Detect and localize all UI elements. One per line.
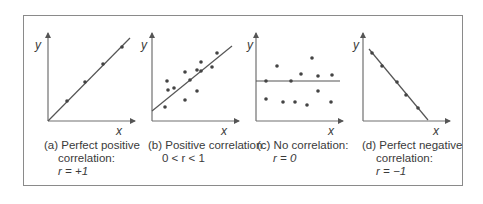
panel-a-caption-line1: (a) Perfect positive (44, 139, 140, 152)
panel-a-x-label: x (116, 124, 122, 138)
panel-b-fit-line (152, 46, 232, 111)
panel-d-caption-line2: correlation: (362, 152, 462, 165)
data-point (165, 79, 169, 83)
data-point (316, 89, 320, 93)
data-point (310, 56, 314, 60)
data-point (416, 106, 420, 110)
panel-b-caption-line1: (b) Positive correlation: (148, 139, 266, 152)
data-point (305, 103, 309, 107)
data-point (330, 73, 334, 77)
data-point (299, 72, 303, 76)
panel-c-caption-line1: (c) No correlation: (257, 139, 348, 152)
data-point (163, 105, 167, 109)
panel-b-caption-line2: 0 < r < 1 (148, 152, 266, 165)
panel-c-y-label: y (247, 38, 253, 52)
data-point (183, 98, 187, 102)
panel-d-caption: (d) Perfect negative correlation: r = −1 (362, 139, 462, 178)
data-point (316, 74, 320, 78)
data-point (404, 93, 408, 97)
data-point (195, 89, 199, 93)
data-point (210, 65, 214, 69)
data-point (120, 45, 124, 49)
data-point (183, 70, 187, 74)
data-point (101, 62, 105, 66)
panel-b-y-label: y (141, 38, 147, 52)
panel-d-caption-line3: r = −1 (362, 165, 462, 178)
panel-a-y-label: y (35, 38, 41, 52)
panel-b-x-label: x (221, 124, 227, 138)
data-point (380, 64, 384, 68)
data-point (166, 88, 170, 92)
data-point (195, 68, 199, 72)
data-point (172, 86, 176, 90)
data-point (199, 60, 203, 64)
data-point (65, 99, 69, 103)
panel-c-x-label: x (328, 124, 334, 138)
data-point (370, 51, 374, 55)
panel-c-caption-line2: r = 0 (257, 152, 348, 165)
panel-d-caption-line1: (d) Perfect negative (362, 139, 462, 152)
panel-d-y-label: y (353, 38, 359, 52)
data-point (275, 64, 279, 68)
data-point (188, 78, 192, 82)
data-point (293, 100, 297, 104)
panel-a-caption-line2: correlation: (44, 152, 140, 165)
panel-a-caption: (a) Perfect positive correlation: r = +1 (44, 139, 140, 178)
data-point (395, 80, 399, 84)
data-point (199, 69, 203, 73)
panel-b-caption: (b) Positive correlation: 0 < r < 1 (148, 139, 266, 165)
data-point (281, 100, 285, 104)
panel-d-x-label: x (433, 124, 439, 138)
data-point (215, 51, 219, 55)
panel-a-caption-line3: r = +1 (44, 165, 140, 178)
panel-c-caption: (c) No correlation: r = 0 (257, 139, 348, 165)
data-point (264, 79, 268, 83)
data-point (83, 80, 87, 84)
data-point (264, 97, 268, 101)
data-point (329, 100, 333, 104)
data-point (289, 79, 293, 83)
panel-a-fit-line (48, 38, 130, 121)
